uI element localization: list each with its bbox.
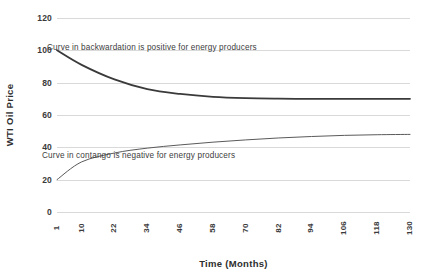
gridline (57, 212, 410, 213)
chart-figure: WTI Oil Price 120100806040200 Curve in b… (0, 0, 444, 280)
x-axis-tick-label: 82 (275, 223, 283, 232)
x-axis-tick-label: 70 (242, 223, 250, 232)
x-axis-tick-labels: 11022344658708294106118130 (57, 214, 410, 248)
y-axis-title-container: WTI Oil Price (0, 0, 18, 230)
curve-backwardation (57, 50, 410, 99)
x-axis-tick-label: 46 (176, 223, 184, 232)
x-axis-tick-label: 94 (307, 223, 315, 232)
x-axis-tick-label: 22 (110, 223, 118, 232)
x-axis-tick-label: 130 (406, 221, 414, 235)
x-axis-title: Time (Months) (57, 258, 410, 269)
y-axis-tick-label: 80 (42, 79, 52, 88)
x-axis-tick-label: 106 (340, 221, 348, 235)
y-axis-title: WTI Oil Price (4, 84, 15, 147)
y-axis-tick-label: 120 (37, 14, 52, 23)
annotation-backwardation: Curve in backwardation is positive for e… (47, 44, 257, 52)
y-axis-tick-label: 60 (42, 111, 52, 120)
x-axis-tick-label: 34 (143, 223, 151, 232)
x-axis-tick-label: 1 (53, 226, 61, 231)
y-axis-tick-labels: 120100806040200 (22, 0, 52, 280)
x-axis-tick-label: 58 (209, 223, 217, 232)
x-axis-tick-label: 118 (373, 221, 381, 235)
x-axis-tick-label: 10 (78, 223, 86, 232)
annotation-contango: Curve in contango is negative for energy… (42, 152, 235, 160)
y-axis-tick-label: 0 (47, 208, 52, 217)
y-axis-tick-label: 20 (42, 176, 52, 185)
